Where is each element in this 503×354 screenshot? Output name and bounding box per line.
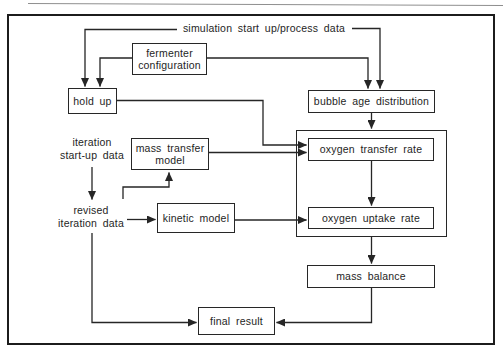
edge-revised-iteration-to-mass-transfer-model (123, 173, 169, 200)
label-revised-iteration-data: revised iteration data (47, 204, 135, 229)
node-mass-balance: mass balance (307, 265, 435, 288)
edge-mass-balance-to-final-result (277, 288, 372, 323)
node-final-result: final result (198, 307, 275, 335)
node-mass-transfer-model: mass transfer model (131, 138, 209, 170)
edge-revised-iteration-to-final-result (92, 233, 197, 323)
node-oxygen-uptake-rate: oxygen uptake rate (308, 207, 434, 229)
label-simulation-data: simulation start up/process data (175, 22, 353, 35)
node-kinetic-model: kinetic model (157, 203, 235, 233)
flowchart-page: simulation start up/process data iterati… (0, 0, 503, 354)
edge-fermenter-configuration-to-bubble-age-distribution (207, 58, 368, 89)
node-oxygen-transfer-rate: oxygen transfer rate (308, 138, 434, 161)
node-hold-up: hold up (68, 88, 117, 114)
node-bubble-age-distribution: bubble age distribution (308, 90, 435, 113)
edge-fermenter-configuration-to-hold-up (100, 58, 132, 87)
node-fermenter-configuration: fermenter configuration (132, 43, 207, 75)
label-iteration-startup-data: iteration start-up data (44, 136, 140, 161)
scan-artifact-line (28, 4, 503, 6)
